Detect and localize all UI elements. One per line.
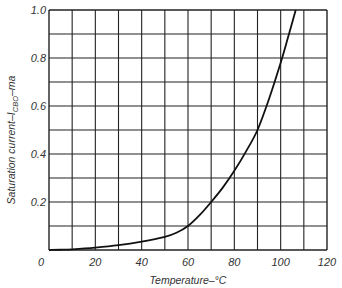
x-tick-label: 120 — [318, 256, 337, 268]
y-tick-label: 0.4 — [31, 148, 46, 160]
x-tick-label: 60 — [182, 256, 195, 268]
y-tick-label: 0.8 — [31, 52, 47, 64]
x-tick-label: 80 — [228, 256, 241, 268]
y-tick-label: 0.6 — [31, 100, 47, 112]
x-tick-label: 20 — [88, 256, 102, 268]
x-axis-ticks: 020406080100120 — [38, 256, 337, 268]
y-axis-ticks: 0.20.40.60.81.0 — [31, 4, 47, 208]
x-tick-label: 40 — [136, 256, 149, 268]
x-tick-label: 100 — [271, 256, 290, 268]
y-tick-label: 1.0 — [31, 4, 47, 16]
y-tick-label: 0.2 — [31, 196, 46, 208]
x-axis-label: Temperature–°C — [150, 274, 227, 286]
y-axis-label: Saturation current–ICBO–ma — [5, 75, 20, 204]
x-tick-label: 0 — [38, 256, 45, 268]
chart: 020406080100120 0.20.40.60.81.0 Temperat… — [0, 0, 342, 288]
